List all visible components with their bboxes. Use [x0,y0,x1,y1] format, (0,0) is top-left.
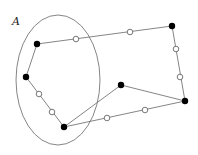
open-node-icon [127,29,133,35]
filled-node-icon [169,23,175,29]
edge-b5-b1 [26,44,37,77]
filled-node-icon [34,41,40,47]
open-node-icon [73,36,79,42]
edge-b1-b2 [37,26,172,44]
filled-node-icon [23,74,29,80]
edge-b2-b3 [172,26,185,101]
open-node-icon [49,109,55,115]
filled-node-icon [182,98,188,104]
edge-b6-b3 [121,85,185,101]
filled-node-icon [61,124,67,130]
nodes [23,23,188,130]
edge-b4-b5 [26,77,64,127]
diagram-canvas: A [0,0,198,155]
open-node-icon [36,91,42,97]
open-node-icon [177,74,183,80]
open-node-icon [173,46,179,52]
set-label-a: A [11,15,20,28]
filled-node-icon [118,82,124,88]
open-node-icon [104,115,110,121]
open-node-icon [142,107,148,113]
